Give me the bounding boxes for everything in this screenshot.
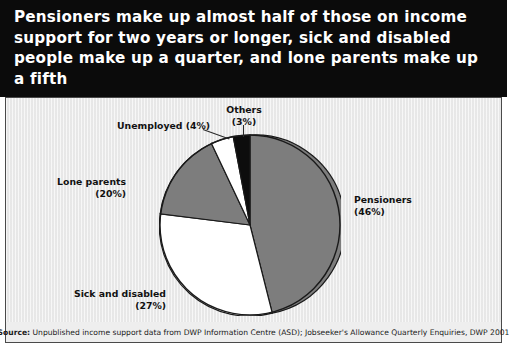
slice-label-lone-parents: Lone parents (20%)	[24, 176, 126, 199]
title-banner: Pensioners make up almost half of those …	[0, 0, 507, 97]
slice-label-unemployed-text: Unemployed (4%)	[102, 120, 210, 132]
slice-label-pensioners-value: (46%)	[354, 206, 474, 218]
slice-label-pensioners-name: Pensioners	[354, 194, 474, 206]
source-note: Source: Unpublished income support data …	[0, 328, 509, 337]
chart-panel: Others (3%) Unemployed (4%) Lone parents…	[5, 97, 502, 343]
slice-label-lone-parents-name: Lone parents	[24, 176, 126, 188]
chart-title: Pensioners make up almost half of those …	[14, 7, 493, 89]
slice-label-sick-and-disabled-name: Sick and disabled	[46, 288, 166, 300]
pie-svg	[159, 134, 341, 316]
slice-label-pensioners: Pensioners (46%)	[354, 194, 474, 217]
source-body: Unpublished income support data from DWP…	[30, 328, 509, 337]
slice-label-lone-parents-value: (20%)	[24, 188, 126, 200]
slice-label-others: Others (3%)	[202, 104, 286, 127]
slice-label-sick-and-disabled: Sick and disabled (27%)	[46, 288, 166, 311]
source-bar: Source: Unpublished income support data …	[5, 322, 502, 343]
slice-label-sick-and-disabled-value: (27%)	[46, 300, 166, 312]
pie-graphic	[159, 134, 341, 316]
slice-label-others-name: Others	[202, 104, 286, 116]
slice-label-unemployed: Unemployed (4%)	[102, 120, 210, 132]
source-label: Source:	[0, 328, 30, 337]
slice-label-others-value: (3%)	[202, 116, 286, 128]
